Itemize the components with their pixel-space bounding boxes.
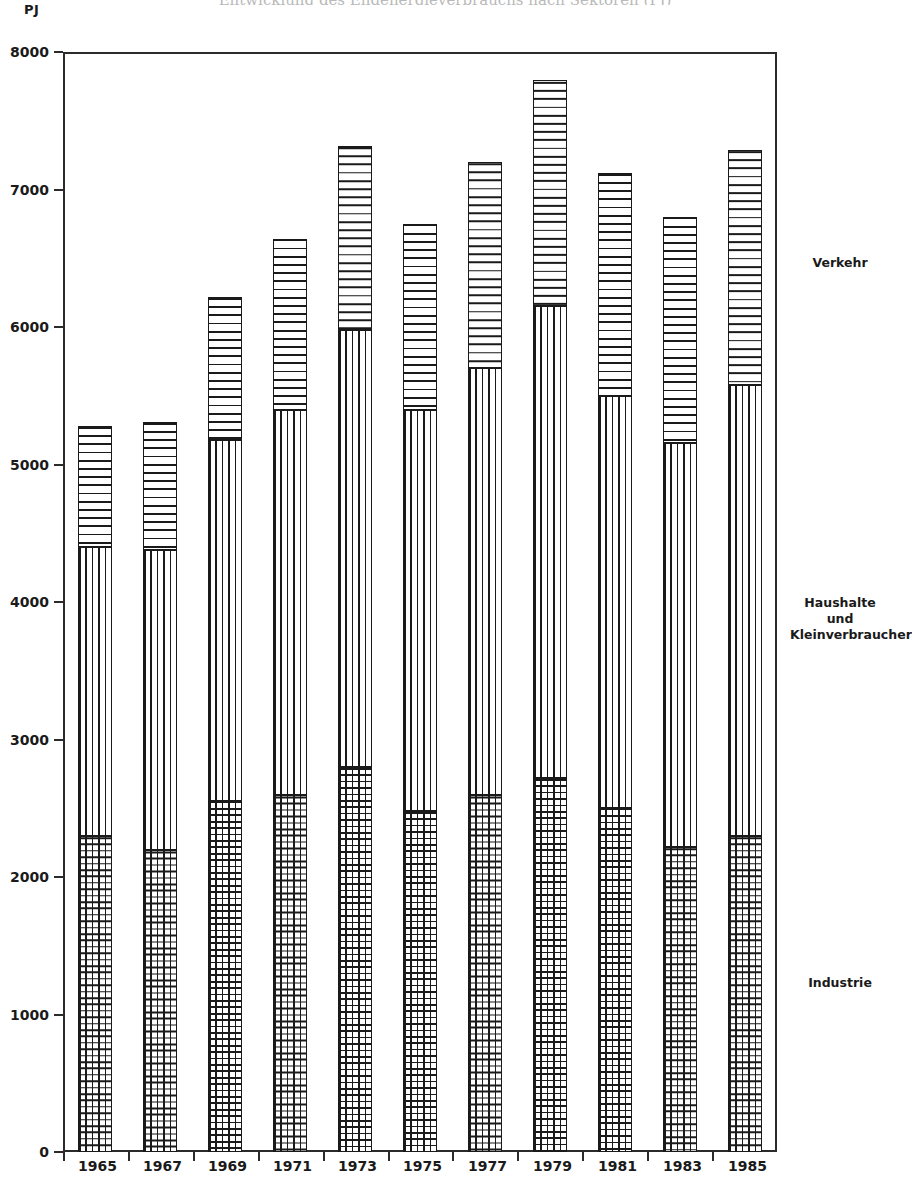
y-axis-tick-label: 1000 (10, 1006, 49, 1024)
page-title: Entwicklung des Endenergieverbrauchs nac… (0, 0, 890, 5)
bar-1979 (533, 80, 567, 1153)
x-axis-tick-label: 1975 (403, 1158, 437, 1174)
y-axis-tick-label: 5000 (10, 456, 49, 474)
x-axis-tick-label: 1979 (533, 1158, 567, 1174)
bar-segment-verkehr (208, 297, 242, 440)
bar-segment-verkehr (663, 217, 697, 443)
bar-1981 (598, 173, 632, 1152)
bar-segment-haushalte (533, 306, 567, 778)
y-axis-tick-mark (54, 739, 63, 741)
y-axis-tick-label: 6000 (10, 318, 49, 336)
bar-segment-industrie (663, 847, 697, 1152)
bar-segment-verkehr (728, 150, 762, 385)
bar-segment-haushalte (598, 396, 632, 809)
bar-segment-industrie (208, 801, 242, 1152)
y-axis-tick-label: 2000 (10, 868, 49, 886)
bar-segment-haushalte (728, 385, 762, 836)
y-axis-tick-label: 8000 (10, 43, 49, 61)
bar-segment-haushalte (338, 330, 372, 767)
x-axis-tick-label: 1969 (208, 1158, 242, 1174)
x-axis-tick-label: 1967 (143, 1158, 177, 1174)
bar-segment-industrie (78, 836, 112, 1152)
x-axis-tick-label: 1981 (598, 1158, 632, 1174)
x-axis-tick-label: 1983 (663, 1158, 697, 1174)
y-axis-tick-mark (54, 326, 63, 328)
y-axis-tick-mark (54, 51, 63, 53)
x-axis-tick-mark (582, 1152, 584, 1161)
bar-1973 (338, 146, 372, 1153)
y-axis-tick-mark (54, 876, 63, 878)
bar-1967 (143, 422, 177, 1152)
bar-segment-industrie (338, 767, 372, 1152)
bar-segment-industrie (143, 850, 177, 1153)
bar-segment-verkehr (143, 422, 177, 550)
bar-segment-industrie (728, 836, 762, 1152)
x-axis-tick-label: 1985 (728, 1158, 762, 1174)
bar-segment-industrie (273, 795, 307, 1153)
legend-label-verkehr: Verkehr (790, 255, 890, 271)
bar-segment-verkehr (338, 146, 372, 330)
bar-segment-industrie (468, 795, 502, 1153)
chart-title-clipped: Entwicklung des Endenergieverbrauchs nac… (0, 0, 890, 5)
x-axis-tick-mark (128, 1152, 130, 1161)
y-axis-tick-mark (54, 601, 63, 603)
x-axis-tick-mark (258, 1152, 260, 1161)
x-axis-tick-label: 1977 (468, 1158, 502, 1174)
y-axis-tick-mark (54, 464, 63, 466)
x-axis-tick-mark (193, 1152, 195, 1161)
x-axis-tick-mark (517, 1152, 519, 1161)
bar-segment-haushalte (143, 550, 177, 850)
x-axis-tick-mark (712, 1152, 714, 1161)
y-axis-tick-label: 0 (39, 1143, 49, 1161)
bar-segment-industrie (598, 808, 632, 1152)
x-axis-tick-mark (647, 1152, 649, 1161)
bar-segment-verkehr (78, 426, 112, 547)
bar-segment-haushalte (403, 410, 437, 812)
bar-1975 (403, 224, 437, 1152)
y-axis-tick-label: 7000 (10, 181, 49, 199)
bar-segment-haushalte (663, 443, 697, 847)
bar-segment-industrie (533, 778, 567, 1152)
bar-segment-haushalte (208, 440, 242, 802)
y-axis-tick-label: 3000 (10, 731, 49, 749)
bar-segment-verkehr (273, 239, 307, 410)
bar-segment-haushalte (78, 547, 112, 836)
x-axis-tick-mark (388, 1152, 390, 1161)
y-axis-tick-mark (54, 1151, 63, 1153)
bar-segment-haushalte (273, 410, 307, 795)
x-axis-tick-mark (63, 1152, 65, 1161)
legend-label-industrie: Industrie (790, 975, 890, 991)
y-axis-unit-label: PJ (24, 2, 39, 17)
bar-segment-verkehr (598, 173, 632, 396)
bar-segment-industrie (403, 811, 437, 1152)
y-axis-tick-label: 4000 (10, 593, 49, 611)
bar-1969 (208, 297, 242, 1152)
bar-1983 (663, 217, 697, 1152)
bar-1985 (728, 150, 762, 1152)
x-axis-tick-label: 1965 (78, 1158, 112, 1174)
bar-segment-verkehr (468, 162, 502, 368)
y-axis-tick-mark (54, 189, 63, 191)
x-axis-tick-mark (323, 1152, 325, 1161)
bar-1977 (468, 162, 502, 1152)
bar-1965 (78, 426, 112, 1152)
bar-segment-verkehr (533, 80, 567, 307)
bar-segment-haushalte (468, 368, 502, 794)
y-axis-tick-mark (54, 1014, 63, 1016)
bar-1971 (273, 239, 307, 1152)
x-axis-tick-label: 1973 (338, 1158, 372, 1174)
x-axis-tick-label: 1971 (273, 1158, 307, 1174)
x-axis-tick-mark (452, 1152, 454, 1161)
bar-segment-verkehr (403, 224, 437, 410)
legend-label-haushalte: Haushalte und Kleinverbraucher (790, 595, 890, 643)
